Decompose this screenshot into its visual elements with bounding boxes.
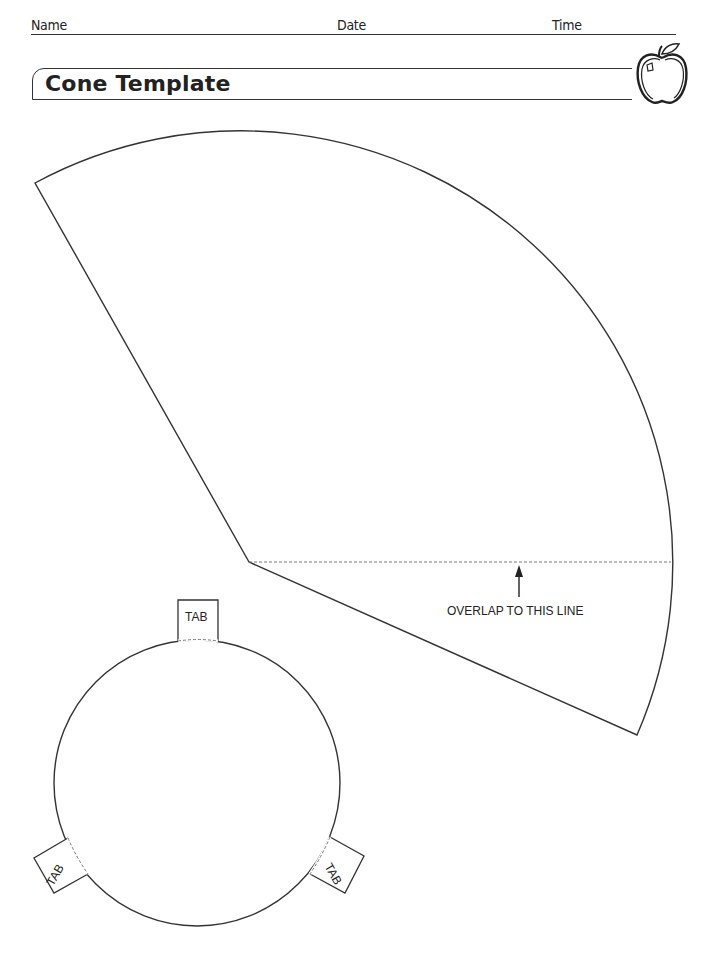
template-drawing: [0, 0, 705, 957]
tab-label-top: TAB: [185, 610, 207, 624]
overlap-instruction: OVERLAP TO THIS LINE: [447, 604, 584, 618]
cone-sector-outline: [35, 131, 673, 735]
base-circle-outline: [54, 640, 340, 926]
arrow-up-icon: [515, 565, 523, 597]
